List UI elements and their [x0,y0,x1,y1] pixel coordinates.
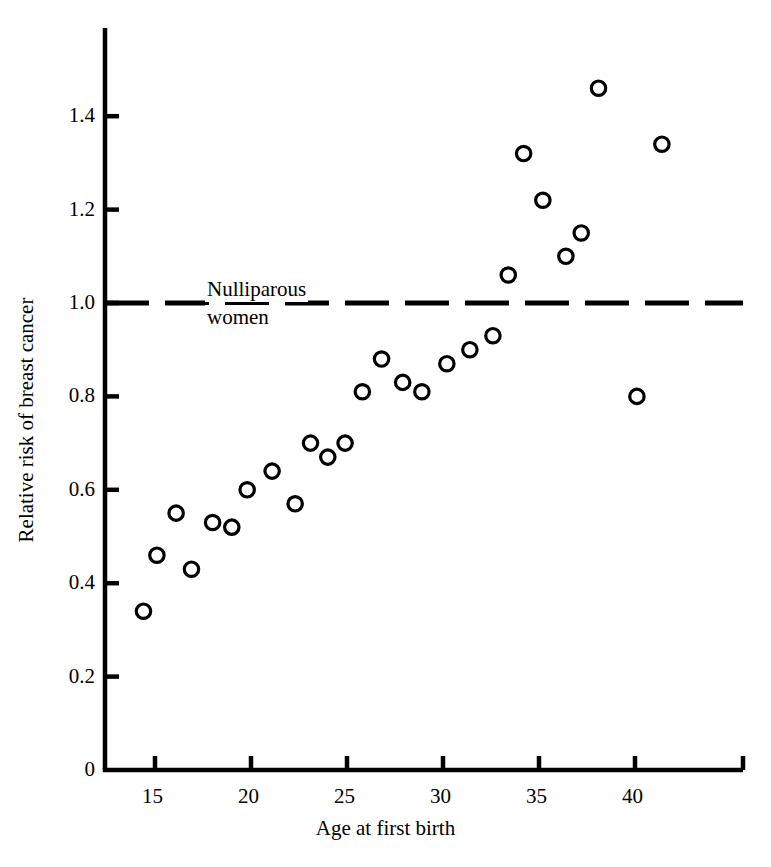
data-point [559,249,573,263]
data-point [415,385,429,399]
data-point [150,548,164,562]
data-point [240,483,254,497]
data-point [536,193,550,207]
scatter-plot-canvas [0,0,771,867]
y-tick-label: 0.8 [47,383,95,408]
data-point [288,497,302,511]
data-point [136,604,150,618]
data-point [574,226,588,240]
data-point [486,328,500,342]
data-point [169,506,183,520]
x-axis-title: Age at first birth [0,816,771,841]
chart-figure: 152025303540 00.20.40.60.81.01.21.4 Null… [0,0,771,867]
data-point [321,450,335,464]
data-point [355,385,369,399]
y-tick-label: 0.6 [47,477,95,502]
data-point [205,515,219,529]
y-tick-label: 0.2 [47,664,95,689]
nulliparous-label-line2: women [205,305,271,330]
y-tick-label: 1.0 [47,290,95,315]
data-point [338,436,352,450]
x-tick-label: 35 [526,784,547,809]
x-tick-label: 25 [334,784,355,809]
y-tick-label: 0.4 [47,570,95,595]
data-point [501,268,515,282]
x-tick-label: 20 [238,784,259,809]
data-point [440,357,454,371]
x-tick-label: 30 [430,784,451,809]
data-point [184,562,198,576]
x-tick-label: 15 [142,784,163,809]
data-point [591,81,605,95]
y-axis-title: Relative risk of breast cancer [14,298,39,543]
nulliparous-label-line1: Nulliparous [205,277,308,302]
y-tick-label: 1.2 [47,197,95,222]
data-point [303,436,317,450]
data-point [630,389,644,403]
data-points-group [136,81,669,618]
data-point [225,520,239,534]
data-point [463,343,477,357]
data-point [395,375,409,389]
x-tick-label: 40 [622,784,643,809]
data-point [374,352,388,366]
y-tick-label: 1.4 [47,103,95,128]
data-point [516,146,530,160]
data-point [265,464,279,478]
data-point [655,137,669,151]
y-tick-label: 0 [47,757,95,782]
